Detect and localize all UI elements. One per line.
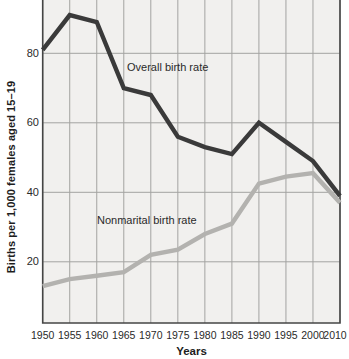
nonmarital-series-label: Nonmarital birth rate <box>97 214 197 226</box>
overall-series-label: Overall birth rate <box>127 61 208 73</box>
x-tick-label: 2010 <box>318 329 349 341</box>
y-axis-title: Births per 1,000 females aged 15–19 <box>5 46 17 308</box>
y-tick-label: 40 <box>9 186 39 198</box>
plot-background <box>43 0 340 323</box>
y-tick-label: 60 <box>9 116 39 128</box>
chart-plot-area <box>0 0 349 359</box>
y-tick-label: 20 <box>9 255 39 267</box>
teen-birth-rate-chart: Births per 1,000 females aged 15–19 Over… <box>0 0 349 359</box>
x-axis-title: Years <box>43 345 340 357</box>
y-tick-label: 80 <box>9 47 39 59</box>
